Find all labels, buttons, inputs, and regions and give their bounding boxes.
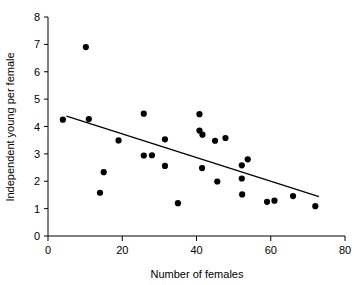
data-point [141,111,147,117]
data-point [214,178,220,184]
y-tick-label: 1 [34,203,40,215]
data-point [149,152,155,158]
data-point [83,44,89,50]
x-tick-label: 0 [45,244,51,256]
y-axis-title: Independent young per female [4,52,16,201]
y-tick-label: 4 [34,121,40,133]
data-point [141,152,147,158]
chart-svg: 012345678 020406080 Number of females In… [0,0,362,285]
y-axis-tick-labels: 012345678 [34,11,40,242]
data-point [162,136,168,142]
data-point [162,163,168,169]
data-point [101,169,107,175]
data-point [239,162,245,168]
data-point [239,191,245,197]
data-point [212,138,218,144]
y-tick-label: 8 [34,11,40,23]
y-tick-label: 0 [34,230,40,242]
y-tick-label: 6 [34,66,40,78]
data-point [60,117,66,123]
data-point [264,199,270,205]
x-tick-label: 20 [116,244,128,256]
y-tick-label: 5 [34,93,40,105]
data-point [245,156,251,162]
data-point [175,200,181,206]
x-tick-label: 40 [190,244,202,256]
x-tick-label: 60 [265,244,277,256]
y-tick-label: 2 [34,175,40,187]
data-point [290,193,296,199]
y-axis-tick-marks [44,17,48,236]
data-point [222,135,228,141]
data-point [199,132,205,138]
x-axis-tick-marks [48,236,345,241]
y-tick-label: 7 [34,38,40,50]
data-point [271,198,277,204]
data-point [86,116,92,122]
data-point [97,190,103,196]
y-tick-label: 3 [34,148,40,160]
x-axis-tick-labels: 020406080 [45,244,351,256]
data-point [199,165,205,171]
data-point [115,137,121,143]
data-point [312,203,318,209]
scatter-chart-figure: 012345678 020406080 Number of females In… [0,0,362,285]
trend-line [67,116,319,196]
x-tick-label: 80 [339,244,351,256]
data-point [196,111,202,117]
data-point [239,175,245,181]
x-axis-title: Number of females [151,268,244,280]
